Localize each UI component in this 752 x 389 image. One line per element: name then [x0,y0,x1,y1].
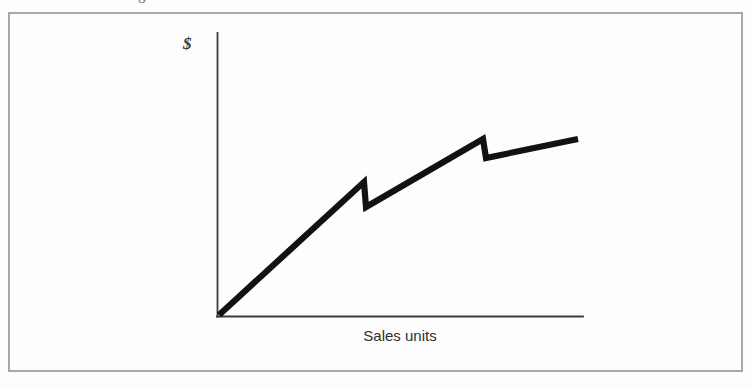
screenshot-root: The Revenue Diagram $ Sales units [0,0,752,389]
y-axis-label: $ [183,34,192,54]
revenue-curve-line [219,139,578,315]
x-axis-label: Sales units [217,327,583,344]
